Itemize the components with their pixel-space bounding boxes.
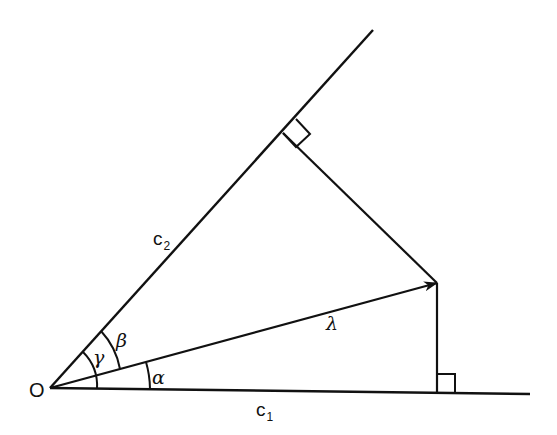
diagram-svg bbox=[0, 0, 557, 435]
arc-alpha bbox=[146, 362, 150, 389]
projection-line-c2 bbox=[283, 133, 437, 283]
diagram-canvas: O c1 c2 λ α β γ bbox=[0, 0, 557, 435]
right-angle-marker-c2 bbox=[283, 119, 310, 147]
alpha-label: α bbox=[152, 368, 165, 387]
c2-label: c2 bbox=[153, 229, 169, 248]
axis-c2-line bbox=[50, 30, 373, 388]
c1-label: c1 bbox=[256, 400, 272, 419]
c2-label-sub: 2 bbox=[164, 239, 171, 253]
lambda-vector-arrow bbox=[50, 283, 437, 388]
c2-label-main: c bbox=[153, 228, 163, 249]
c1-label-main: c bbox=[256, 399, 266, 420]
c1-label-sub: 1 bbox=[267, 410, 274, 424]
origin-label: O bbox=[29, 380, 45, 400]
beta-label: β bbox=[116, 331, 127, 350]
right-angle-marker-c1 bbox=[437, 374, 455, 393]
lambda-label: λ bbox=[326, 314, 338, 333]
gamma-label: γ bbox=[93, 348, 104, 367]
axis-c1-line bbox=[50, 388, 530, 394]
